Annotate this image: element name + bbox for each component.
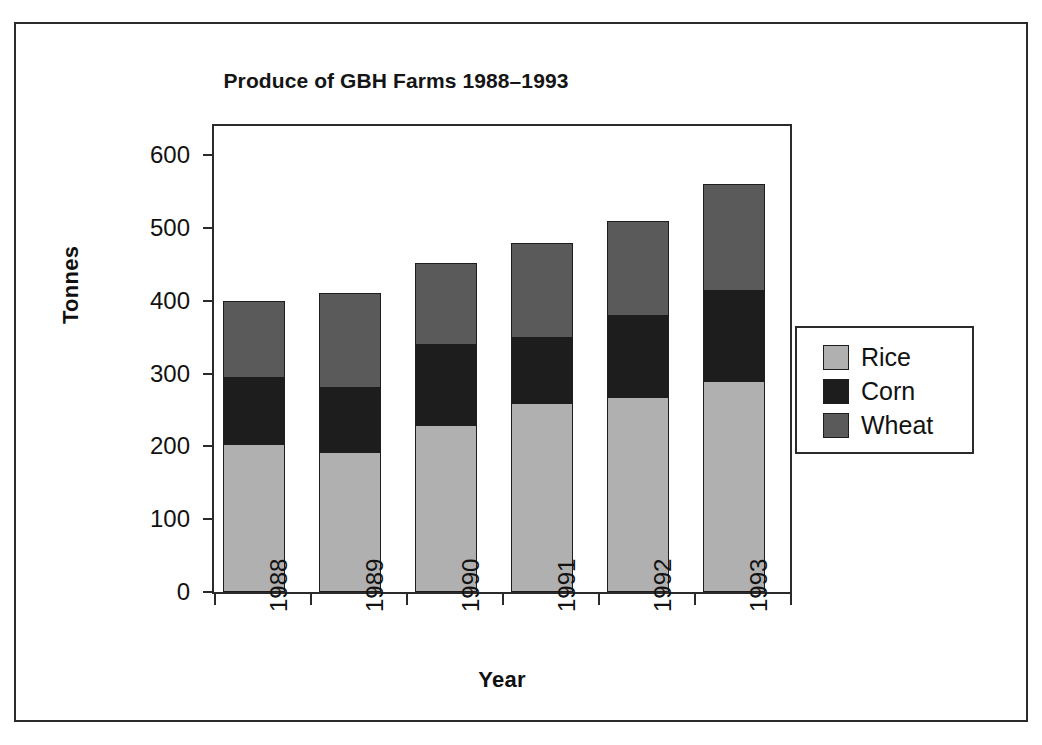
bar-segment-wheat[interactable] xyxy=(415,263,477,345)
x-axis-tick-label: 1989 xyxy=(361,559,389,612)
x-axis-tick-label: 1990 xyxy=(457,559,485,612)
bar-segment-wheat[interactable] xyxy=(223,301,285,377)
x-axis-tick-label: 1993 xyxy=(745,559,773,612)
y-axis-tick-mark xyxy=(203,445,212,447)
bar-segment-wheat[interactable] xyxy=(511,243,573,338)
chart-figure: Produce of GBH Farms 1988–1993 Tonnes Ye… xyxy=(16,24,1030,724)
y-axis-tick-label: 600 xyxy=(128,141,190,169)
legend-item-rice[interactable]: Rice xyxy=(823,340,972,374)
legend-item-wheat[interactable]: Wheat xyxy=(823,408,972,442)
chart-title: Produce of GBH Farms 1988–1993 xyxy=(16,69,776,93)
y-axis-tick-label: 100 xyxy=(128,505,190,533)
legend-label: Rice xyxy=(861,345,911,370)
bar-segment-corn[interactable] xyxy=(703,290,765,381)
y-axis-tick-label: 300 xyxy=(128,360,190,388)
bar-segment-corn[interactable] xyxy=(511,337,573,403)
y-axis-tick-label: 400 xyxy=(128,287,190,315)
x-axis-tick-mark xyxy=(406,594,408,605)
x-axis-tick-mark xyxy=(502,594,504,605)
bar-stack[interactable] xyxy=(415,263,477,592)
y-axis-tick-label: 500 xyxy=(128,214,190,242)
legend-swatch-corn xyxy=(823,379,849,404)
y-axis-tick-mark xyxy=(203,373,212,375)
x-axis-tick-mark xyxy=(310,594,312,605)
chart-legend: RiceCornWheat xyxy=(795,326,974,454)
legend-item-corn[interactable]: Corn xyxy=(823,374,972,408)
legend-swatch-wheat xyxy=(823,413,849,438)
y-axis-tick-mark xyxy=(203,154,212,156)
bar-stack[interactable] xyxy=(319,293,381,592)
bar-segment-wheat[interactable] xyxy=(607,221,669,316)
y-axis-title: Tonnes xyxy=(58,246,84,324)
y-axis-tick-mark xyxy=(203,227,212,229)
x-axis-tick-label: 1992 xyxy=(649,559,677,612)
bar-segment-wheat[interactable] xyxy=(703,184,765,290)
bar-stack[interactable] xyxy=(511,243,573,593)
bar-stack[interactable] xyxy=(607,221,669,592)
x-axis-tick-label: 1988 xyxy=(265,559,293,612)
bar-stack[interactable] xyxy=(223,301,285,592)
plot-area xyxy=(214,126,790,592)
bar-segment-wheat[interactable] xyxy=(319,293,381,386)
bar-segment-corn[interactable] xyxy=(415,344,477,424)
y-axis-tick-label: 200 xyxy=(128,432,190,460)
bar-segment-corn[interactable] xyxy=(223,377,285,444)
x-axis-tick-mark xyxy=(790,594,792,605)
legend-label: Wheat xyxy=(861,413,933,438)
legend-swatch-rice xyxy=(823,345,849,370)
bar-segment-corn[interactable] xyxy=(607,315,669,397)
y-axis-tick-mark xyxy=(203,591,212,593)
legend-label: Corn xyxy=(861,379,915,404)
bar-segment-corn[interactable] xyxy=(319,387,381,453)
x-axis-tick-label: 1991 xyxy=(553,559,581,612)
y-axis-tick-mark xyxy=(203,300,212,302)
y-axis-tick-label: 0 xyxy=(128,578,190,606)
x-axis-tick-mark xyxy=(214,594,216,605)
x-axis-tick-mark xyxy=(694,594,696,605)
y-axis-tick-mark xyxy=(203,518,212,520)
x-axis-tick-mark xyxy=(598,594,600,605)
bar-stack[interactable] xyxy=(703,184,765,592)
page-border: Produce of GBH Farms 1988–1993 Tonnes Ye… xyxy=(14,22,1028,722)
x-axis-title: Year xyxy=(212,667,792,693)
